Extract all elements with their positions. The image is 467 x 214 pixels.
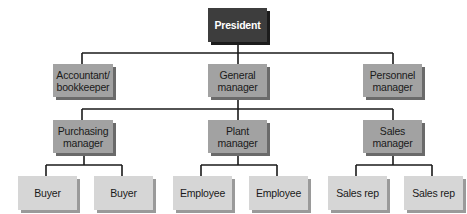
node-sales-rep-1: Sales rep: [328, 176, 387, 210]
node-employee-1: Employee: [173, 176, 232, 210]
node-label: Plant manager: [217, 125, 257, 149]
node-label: General manager: [217, 69, 257, 93]
node-plant-manager: Plant manager: [208, 120, 267, 153]
node-president: President: [208, 8, 267, 42]
node-buyer-1: Buyer: [18, 176, 77, 210]
node-label: Personnel manager: [370, 69, 415, 93]
node-label: Accountant/ bookkeeper: [56, 69, 109, 93]
node-label: Sales manager: [372, 125, 412, 149]
node-purchasing-manager: Purchasing manager: [53, 120, 113, 153]
node-label: Sales rep: [412, 187, 455, 199]
node-label: Purchasing manager: [58, 125, 109, 149]
node-buyer-2: Buyer: [94, 176, 153, 210]
node-label: Employee: [256, 187, 301, 199]
node-general-manager: General manager: [208, 64, 267, 97]
node-sales-manager: Sales manager: [363, 120, 422, 153]
node-employee-2: Employee: [249, 176, 308, 210]
node-label: Sales rep: [336, 187, 379, 199]
node-label: Buyer: [34, 187, 60, 199]
node-sales-rep-2: Sales rep: [404, 176, 463, 210]
org-chart: President Accountant/ bookkeeper General…: [0, 0, 467, 214]
node-personnel-manager: Personnel manager: [363, 64, 422, 97]
node-label: Employee: [180, 187, 225, 199]
node-accountant-bookkeeper: Accountant/ bookkeeper: [53, 64, 113, 97]
node-label: President: [214, 19, 260, 31]
node-label: Buyer: [110, 187, 136, 199]
